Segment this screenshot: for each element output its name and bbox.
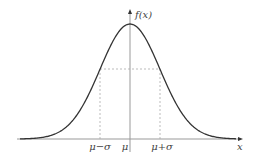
- y-axis-arrow-icon: [128, 9, 132, 14]
- gaussian-curve: [20, 24, 236, 139]
- x-axis-label: x: [237, 141, 243, 152]
- tick-label-mu-plus-sigma: μ+σ: [151, 141, 174, 152]
- tick-label-mu: μ: [122, 141, 129, 152]
- normal-distribution-diagram: f(x) x μ−σ μ μ+σ: [0, 0, 259, 160]
- y-axis-label: f(x): [134, 9, 152, 20]
- tick-label-mu-minus-sigma: μ−σ: [89, 141, 112, 152]
